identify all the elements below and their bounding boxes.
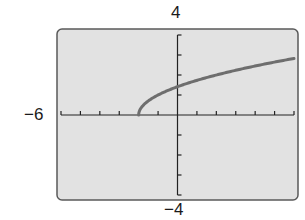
graphing-calculator-screen [0, 0, 305, 220]
